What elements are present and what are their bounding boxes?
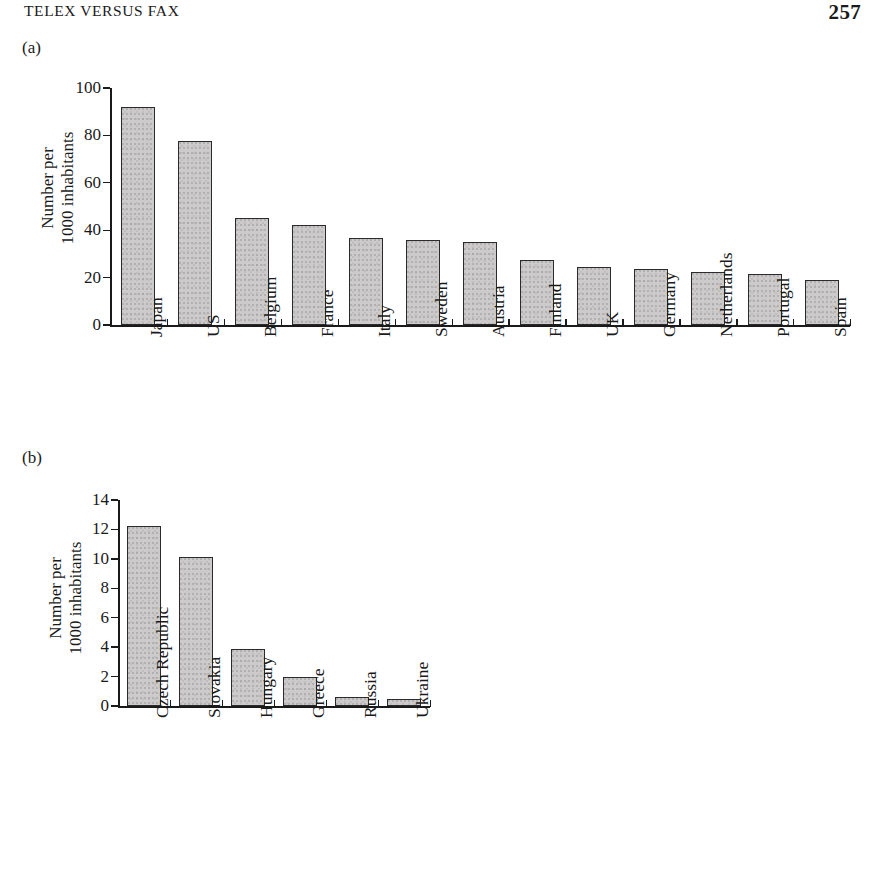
- x-tick-label-a: Japan: [146, 297, 167, 337]
- x-tick-label-a: France: [317, 289, 338, 337]
- x-tick-label-a: Portugal: [773, 278, 794, 337]
- x-tick-label-a: Sweden: [431, 282, 452, 337]
- y-tick-a: [103, 230, 110, 231]
- y-tick-b: [111, 529, 118, 530]
- x-tick-label-a: Netherlands: [716, 252, 737, 337]
- x-tick-label-b: Greece: [308, 668, 329, 718]
- y-tick-a: [103, 135, 110, 136]
- y-tick-b: [111, 617, 118, 618]
- plot-area-a: 020406080100: [110, 88, 850, 325]
- page-number: 257: [829, 0, 861, 25]
- y-tick-a: [103, 324, 110, 325]
- page-header: TELEX VERSUS FAX 257: [24, 0, 861, 30]
- y-tick-b: [111, 705, 118, 706]
- x-tick-label-b: Slovakia: [204, 657, 225, 718]
- y-tick-label-a: 80: [84, 125, 101, 145]
- y-tick-label-b: 8: [101, 578, 110, 598]
- x-tick-label-a: US: [203, 315, 224, 337]
- y-tick-b: [111, 676, 118, 677]
- y-axis-line-a: [110, 88, 112, 327]
- panel-label-a: (a): [22, 38, 41, 58]
- y-tick-label-b: 2: [101, 667, 110, 687]
- y-tick-label-a: 40: [84, 220, 101, 240]
- panel-label-b: (b): [22, 448, 42, 468]
- x-tick-a: [167, 319, 168, 326]
- x-tick-a: [224, 319, 225, 326]
- y-tick-b: [111, 499, 118, 500]
- x-tick-label-b: Hungary: [256, 657, 277, 718]
- chart-panel-b: (b) Number per 1000 inhabitants 02468101…: [0, 448, 879, 884]
- y-axis-label-b: Number per 1000 inhabitants: [46, 503, 86, 693]
- y-tick-label-b: 10: [92, 549, 109, 569]
- y-tick-label-b: 0: [101, 696, 110, 716]
- y-tick-b: [111, 646, 118, 647]
- y-tick-b: [111, 588, 118, 589]
- y-tick-label-b: 12: [92, 519, 109, 539]
- x-tick-label-a: Belgium: [260, 277, 281, 337]
- x-tick-label-a: UK: [602, 312, 623, 337]
- y-tick-a: [103, 277, 110, 278]
- x-tick-label-b: Czech Republic: [152, 607, 173, 718]
- y-tick-b: [111, 558, 118, 559]
- x-tick-label-b: Russia: [360, 671, 381, 718]
- bar-a: [178, 141, 212, 325]
- x-tick-label-a: Finland: [545, 284, 566, 337]
- y-tick-label-b: 4: [101, 637, 110, 657]
- y-tick-a: [103, 87, 110, 88]
- y-axis-label-a-line1: Number per: [38, 83, 58, 293]
- y-tick-a: [103, 182, 110, 183]
- x-tick-label-a: Italy: [374, 305, 395, 337]
- y-axis-label-b-line1: Number per: [46, 503, 66, 693]
- y-axis-line-b: [118, 500, 120, 708]
- y-axis-label-b-line2: 1000 inhabitants: [66, 503, 86, 693]
- x-tick-a: [110, 319, 111, 326]
- y-tick-label-b: 14: [92, 490, 109, 510]
- y-tick-label-b: 6: [101, 608, 110, 628]
- x-tick-b: [118, 700, 119, 707]
- y-tick-label-a: 60: [84, 173, 101, 193]
- y-axis-label-a: Number per 1000 inhabitants: [38, 83, 78, 293]
- running-title: TELEX VERSUS FAX: [24, 2, 179, 20]
- x-tick-label-a: Austria: [488, 285, 509, 337]
- y-tick-label-a: 20: [84, 268, 101, 288]
- y-tick-label-a: 100: [76, 78, 102, 98]
- chart-panel-a: (a) Number per 1000 inhabitants 02040608…: [0, 38, 879, 448]
- x-tick-label-a: Germany: [659, 272, 680, 337]
- y-axis-label-a-line2: 1000 inhabitants: [58, 83, 78, 293]
- y-tick-label-a: 0: [93, 315, 102, 335]
- x-tick-label-a: Spain: [830, 297, 851, 337]
- bar-a: [121, 107, 155, 325]
- x-tick-label-b: Ukraine: [412, 662, 433, 718]
